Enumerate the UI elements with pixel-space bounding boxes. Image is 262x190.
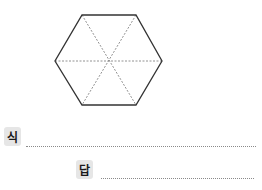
hexagon-dividers [55,15,162,105]
hexagon-outline [55,15,162,105]
expression-line[interactable] [26,146,256,147]
hexagon-figure [0,0,262,120]
answer-line[interactable] [101,178,254,179]
expression-label: 식 [4,127,21,146]
answer-label: 답 [76,160,93,179]
